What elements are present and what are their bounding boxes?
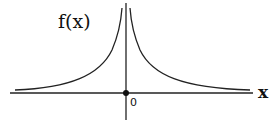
curve-right-branch [130, 8, 250, 90]
function-label: f(x) [58, 12, 91, 31]
origin-label: 0 [130, 97, 137, 108]
function-diagram: f(x) x 0 [0, 0, 274, 122]
x-axis-label: x [258, 84, 268, 101]
plot-canvas [0, 0, 274, 122]
origin-point [123, 90, 129, 96]
